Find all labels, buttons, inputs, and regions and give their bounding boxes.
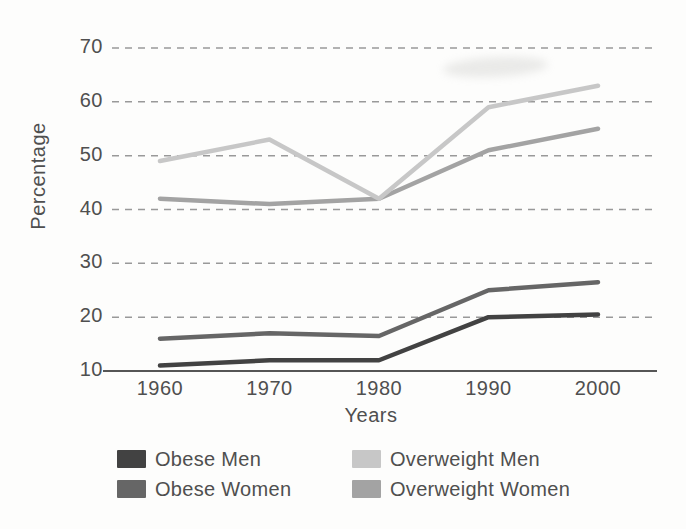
legend-label-overweight-men: Overweight Men [390,449,540,469]
y-tick-50: 50 [0,143,103,165]
legend-item-overweight-women: Overweight Women [352,479,570,499]
legend-label-overweight-women: Overweight Women [390,479,570,499]
y-tick-30: 30 [0,250,103,272]
legend-swatch-obese-men [117,450,146,468]
y-tick-10: 10 [0,358,103,380]
y-tick-60: 60 [0,89,103,111]
legend-item-overweight-men: Overweight Men [352,449,540,469]
series-lines [160,86,598,366]
y-tick-20: 20 [0,304,103,326]
legend-swatch-overweight-women [352,480,381,498]
x-axis-title: Years [345,404,398,426]
legend-item-obese-women: Obese Women [117,479,291,499]
x-tick-1970: 1970 [230,377,310,399]
series-line-overweight-women [160,129,598,204]
legend-swatch-overweight-men [352,450,381,468]
y-tick-40: 40 [0,197,103,219]
y-axis-title: Percentage [27,122,49,229]
series-line-obese-men [160,314,598,365]
x-tick-1980: 1980 [339,377,419,399]
x-tick-2000: 2000 [558,377,638,399]
gridlines [103,48,657,371]
legend-label-obese-men: Obese Men [155,449,261,469]
x-tick-1960: 1960 [120,377,200,399]
legend-label-obese-women: Obese Women [155,479,291,499]
legend-item-obese-men: Obese Men [117,449,261,469]
series-line-obese-women [160,282,598,339]
scanned-line-chart-figure: 70605040302010 19601970198019902000 Perc… [0,0,686,529]
legend-swatch-obese-women [117,480,146,498]
x-tick-1990: 1990 [449,377,529,399]
y-tick-70: 70 [0,35,103,57]
